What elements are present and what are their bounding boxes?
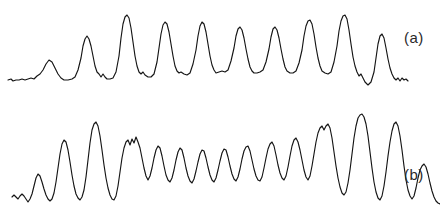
figure-container: (a) (b) [0,0,440,222]
waveform-figure: (a) (b) [0,0,440,222]
panel-label-a: (a) [404,29,424,46]
figure-background [0,0,440,222]
panel-label-b: (b) [404,166,424,183]
